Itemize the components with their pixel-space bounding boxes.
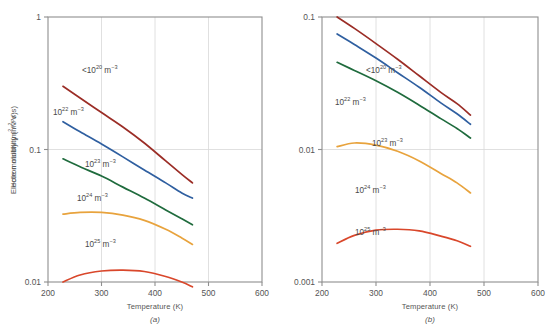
label-p-1e23: 1023 m−3 bbox=[372, 139, 403, 148]
label-n-1e25: 1025 m−3 bbox=[85, 240, 116, 249]
xaxis-title-b: Temperature (K) bbox=[322, 302, 538, 311]
xtick-label-b-400: 400 bbox=[423, 288, 437, 298]
xtick-label-b-500: 500 bbox=[477, 288, 491, 298]
data-curve bbox=[337, 34, 470, 124]
xaxis-title-a: Temperature (K) bbox=[48, 302, 262, 311]
xtick-label-b-300: 300 bbox=[369, 288, 383, 298]
label-p-1e24: 1024 m−3 bbox=[355, 186, 386, 195]
label-p-lt-1e20: <1020 m−3 bbox=[366, 66, 402, 75]
data-curve bbox=[63, 212, 192, 244]
xtick-label-b-200: 200 bbox=[315, 288, 329, 298]
hole-mobility-plot bbox=[280, 0, 560, 332]
xtick-label-a-400: 400 bbox=[148, 288, 162, 298]
xtick-label-a-600: 600 bbox=[255, 288, 269, 298]
label-p-1e22: 1022 m−3 bbox=[335, 98, 366, 107]
ytick-label-b-0.01: 0.01 bbox=[0, 145, 315, 155]
xtick-label-b-600: 600 bbox=[531, 288, 545, 298]
data-curve bbox=[63, 122, 192, 198]
panel-caption-a: (a) bbox=[48, 315, 262, 324]
panel-caption-b: (b) bbox=[322, 315, 538, 324]
label-n-1e23: 1023 m−3 bbox=[85, 160, 116, 169]
label-p-1e25: 1025 m−3 bbox=[355, 228, 386, 237]
ytick-label-b-0.001: 0.001 bbox=[0, 277, 315, 287]
label-n-1e24: 1024 m−3 bbox=[77, 194, 108, 203]
xtick-label-a-300: 300 bbox=[95, 288, 109, 298]
label-n-1e22: 1022 m−3 bbox=[53, 108, 84, 117]
ytick-label-b-0.1: 0.1 bbox=[0, 12, 315, 22]
xtick-label-a-200: 200 bbox=[41, 288, 55, 298]
data-curve bbox=[63, 159, 192, 225]
xtick-label-a-500: 500 bbox=[202, 288, 216, 298]
yaxis-title-b: Hole mobility (m2/V·s) bbox=[9, 112, 18, 188]
label-n-lt-1e20: <1020 m−3 bbox=[82, 66, 118, 75]
panel-hole-mobility bbox=[280, 0, 560, 332]
